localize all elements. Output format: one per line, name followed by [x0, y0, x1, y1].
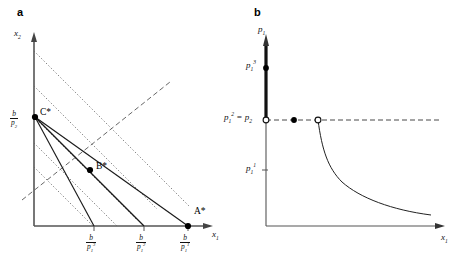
p11-sup: 1	[253, 162, 256, 168]
x-tick1-denominator: p11	[180, 242, 190, 251]
p12-equals-sub: 2	[249, 118, 252, 124]
y-tick-numerator: b	[10, 110, 18, 118]
panel-b: b p1 x1 p13 p12 = p2	[232, 0, 463, 264]
budget-line-1	[35, 117, 188, 226]
label-b-star: B*	[96, 161, 107, 171]
panel-a-y-axis-label: x2	[14, 28, 21, 38]
p11-sub: 1	[251, 169, 254, 175]
point-c-star	[32, 114, 38, 120]
panel-b-y-axis-label: p1	[258, 24, 265, 34]
fraction-b-over-p1-3: b p13	[86, 234, 96, 251]
panel-b-plot	[232, 0, 463, 264]
indifference-curve-5	[34, 167, 93, 226]
y-axis-label-sub: 2	[18, 34, 21, 40]
fraction-b-over-p2: b p2	[10, 110, 18, 127]
p13-sup: 3	[253, 59, 256, 65]
panel-a-plot	[0, 0, 232, 264]
demand-branch-curve	[318, 120, 431, 215]
point-a-star	[185, 223, 191, 229]
panel-b-x-label-sub: 1	[445, 238, 448, 244]
x-tick1-den-sub: 1	[185, 247, 187, 252]
panel-a: a	[0, 0, 232, 264]
label-a-star: A*	[194, 206, 206, 216]
filled-circle-demand	[291, 117, 297, 123]
panel-a-x-tick-label-2: b p12	[136, 234, 146, 251]
diagonal-45-line	[22, 82, 170, 200]
indifference-curve-1	[34, 51, 190, 207]
point-b-star	[87, 167, 93, 173]
x-tick2-den-sup: 2	[143, 241, 145, 246]
panel-b-y-tick-label-p1-3: p13	[246, 60, 256, 70]
panel-a-x-tick-label-3: b p13	[86, 234, 96, 251]
p13-sub: 1	[251, 66, 254, 72]
x-tick1-den-sup: 1	[187, 241, 189, 246]
p12-equals: = p	[234, 112, 249, 122]
y-axis-arrow	[263, 34, 269, 46]
x-tick2-den-sub: 1	[141, 247, 143, 252]
x-tick3-denominator: p13	[86, 242, 96, 251]
panel-b-y-tick-label-p1-2: p12 = p2	[224, 112, 252, 122]
open-circle-origin-price	[263, 117, 269, 123]
x-axis-label-sub: 1	[216, 235, 219, 241]
fraction-b-over-p1-1: b p11	[180, 234, 190, 251]
y-tick-denominator: p2	[10, 118, 18, 127]
budget-line-3	[35, 117, 94, 226]
panel-b-y-label-sub: 1	[263, 30, 266, 36]
panel-b-axes	[263, 34, 445, 229]
open-circle-demand-jump	[315, 117, 321, 123]
panel-a-axes	[31, 32, 213, 229]
x-tick2-denominator: p12	[136, 242, 146, 251]
panel-a-x-axis-label: x1	[212, 229, 219, 239]
y-tick-den-sub: 2	[15, 123, 17, 128]
x-tick3-den-sup: 3	[93, 241, 95, 246]
panel-a-x-tick-label-1: b p11	[180, 234, 190, 251]
budget-lines	[35, 117, 188, 226]
x-axis-arrow	[435, 223, 445, 229]
y-axis-arrow	[31, 32, 37, 42]
label-c-star: C*	[40, 107, 51, 117]
panel-a-y-tick-label: b p2	[10, 110, 18, 127]
panel-b-x-axis-label: x1	[441, 232, 448, 242]
x-tick3-den-sub: 1	[91, 247, 93, 252]
p12-sub: 1	[229, 118, 232, 124]
indifference-curve-4	[34, 143, 117, 226]
panel-b-y-tick-label-p1-1: p11	[246, 163, 256, 173]
fraction-b-over-p1-2: b p12	[136, 234, 146, 251]
point-p1-3-marker	[263, 65, 269, 71]
indifference-curve-3	[34, 117, 137, 220]
indifference-curves	[34, 51, 190, 226]
